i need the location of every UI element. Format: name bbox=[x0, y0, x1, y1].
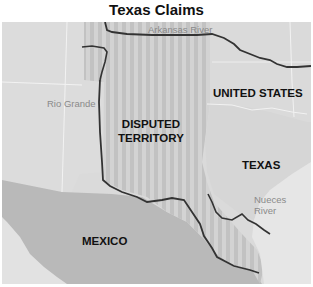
rio-grande-label: Rio Grande bbox=[47, 98, 96, 109]
texas-label: TEXAS bbox=[242, 158, 280, 172]
united-states-label: UNITED STATES bbox=[213, 86, 303, 100]
nueces-river-label-line1: Nueces bbox=[254, 194, 286, 205]
nueces-river-label-line2: River bbox=[254, 205, 286, 216]
disputed-territory-label: DISPUTED TERRITORY bbox=[118, 117, 184, 145]
mexico-label: MEXICO bbox=[82, 234, 127, 248]
nueces-river-label: Nueces River bbox=[254, 194, 286, 216]
map-canvas bbox=[2, 22, 311, 284]
arkansas-river-label: Arkansas River bbox=[148, 24, 212, 35]
disputed-label-line1: DISPUTED bbox=[118, 117, 184, 131]
map-title: Texas Claims bbox=[0, 1, 313, 18]
disputed-label-line2: TERRITORY bbox=[118, 131, 184, 145]
